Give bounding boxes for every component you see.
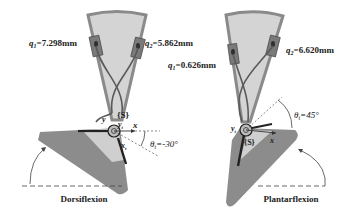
- svg-text:x: x: [132, 120, 138, 130]
- left-panel-dorsiflexion: q1=7.298mm q2=5.862mm {S} y yt x xt θt=-…: [22, 12, 193, 205]
- right-q1-value: =0.626mm: [176, 60, 217, 70]
- right-theta-label: θt=45°: [294, 110, 319, 121]
- svg-text:q1=0.626mm: q1=0.626mm: [168, 60, 216, 71]
- svg-text:xt: xt: [120, 141, 127, 151]
- left-frame-label: {S}: [117, 110, 130, 120]
- svg-text:yt: yt: [230, 124, 237, 134]
- svg-text:q1=7.298mm: q1=7.298mm: [29, 38, 77, 49]
- left-q2-value: =5.862mm: [153, 38, 194, 48]
- left-q1-value: =7.298mm: [37, 38, 78, 48]
- right-caption: Plantarflexion: [264, 194, 319, 204]
- ankle-mechanism-diagram: q1=7.298mm q2=5.862mm {S} y yt x xt θt=-…: [0, 0, 355, 221]
- left-caption: Dorsiflexion: [61, 194, 108, 204]
- right-panel-plantarflexion: q2=6.620mm q1=0.626mm θt=45° yt {S} x Pl…: [168, 12, 334, 207]
- svg-text:q2=6.620mm: q2=6.620mm: [286, 45, 334, 56]
- left-shank: [88, 12, 146, 121]
- left-theta-label: θt=-30°: [150, 139, 178, 150]
- svg-text:y: y: [101, 115, 106, 124]
- diagram-canvas: q1=7.298mm q2=5.862mm {S} y yt x xt θt=-…: [0, 0, 355, 221]
- right-q2-value: =6.620mm: [294, 45, 335, 55]
- svg-text:x: x: [269, 136, 274, 145]
- right-frame-label: {S}: [244, 138, 255, 147]
- svg-text:q2=5.862mm: q2=5.862mm: [145, 38, 193, 49]
